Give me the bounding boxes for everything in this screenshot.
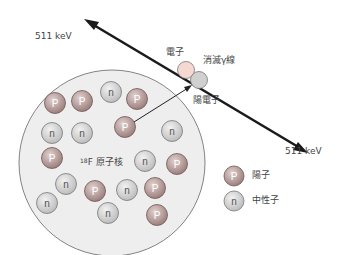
proton: P xyxy=(72,91,93,112)
arrowhead-icon xyxy=(184,85,192,92)
proton: P xyxy=(115,117,136,138)
svg-text:P: P xyxy=(49,153,56,164)
svg-text:n: n xyxy=(79,128,85,139)
svg-text:n: n xyxy=(124,185,130,196)
svg-text:P: P xyxy=(152,183,159,194)
positron-label: 陽電子 xyxy=(193,96,220,105)
legend-neutron-icon: n xyxy=(224,191,244,211)
svg-text:P: P xyxy=(231,171,238,182)
svg-text:P: P xyxy=(122,122,129,133)
svg-text:P: P xyxy=(52,98,59,109)
mass-number: 18 xyxy=(80,157,88,164)
energy-label-bottom: 511 keV xyxy=(285,147,322,156)
svg-text:n: n xyxy=(231,196,237,207)
neutron: n xyxy=(56,174,77,195)
svg-text:P: P xyxy=(79,96,86,107)
proton: P xyxy=(147,205,168,226)
svg-text:n: n xyxy=(142,156,148,167)
neutron: n xyxy=(72,123,93,144)
positron xyxy=(191,72,208,89)
neutron: n xyxy=(162,121,183,142)
electron-label: 電子 xyxy=(166,48,184,57)
proton: P xyxy=(167,154,188,175)
arrowhead-top-left-icon xyxy=(84,19,99,30)
proton: P xyxy=(85,181,106,202)
svg-text:P: P xyxy=(174,159,181,170)
svg-text:n: n xyxy=(49,128,55,139)
svg-text:n: n xyxy=(105,208,111,219)
proton: P xyxy=(42,148,63,169)
neutron: n xyxy=(42,123,63,144)
nucleus-name: F 原子核 xyxy=(88,157,123,167)
proton: P xyxy=(45,93,66,114)
proton: P xyxy=(145,178,166,199)
neutron: n xyxy=(98,203,119,224)
svg-text:n: n xyxy=(44,198,50,209)
svg-text:n: n xyxy=(108,87,114,98)
annihilation-gamma-label: 消滅γ線 xyxy=(203,56,235,65)
svg-text:P: P xyxy=(92,186,99,197)
neutron: n xyxy=(37,193,58,214)
legend-neutron-label: 中性子 xyxy=(252,196,279,205)
svg-text:P: P xyxy=(154,210,161,221)
neutron: n xyxy=(117,180,138,201)
svg-text:n: n xyxy=(63,179,69,190)
legend-proton-icon: P xyxy=(224,166,244,186)
energy-label-top: 511 keV xyxy=(35,32,72,41)
nucleus-label: 18F 原子核 xyxy=(80,158,123,167)
svg-text:n: n xyxy=(169,126,175,137)
legend-proton-label: 陽子 xyxy=(252,171,270,180)
neutron: n xyxy=(135,151,156,172)
proton: P xyxy=(127,89,148,110)
neutron: n xyxy=(101,82,122,103)
svg-text:P: P xyxy=(134,94,141,105)
